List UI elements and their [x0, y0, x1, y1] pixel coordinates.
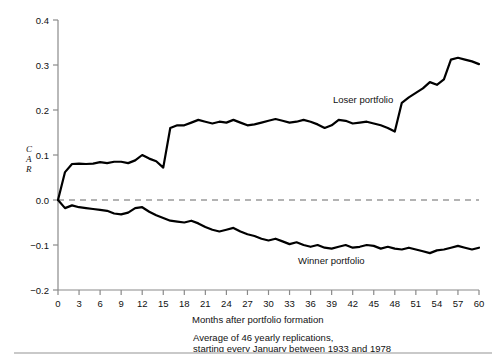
x-axis-tick-labels: 03691215182124273033363942454851545760	[55, 298, 484, 309]
x-axis-title: Months after portfolio formation	[192, 314, 323, 325]
y-axis-tick-label: −0.1	[30, 240, 49, 251]
y-axis-tick-label: 0.3	[36, 60, 49, 71]
x-axis-tick-label: 45	[368, 298, 379, 309]
x-axis-tick-label: 3	[76, 298, 81, 309]
figure-container: −0.2−0.10.00.10.20.30.4 0369121518212427…	[0, 0, 503, 361]
x-axis-tick-label: 42	[347, 298, 358, 309]
x-axis-tick-label: 21	[200, 298, 211, 309]
y-axis-label-letter-r: R	[25, 164, 32, 174]
y-axis-tick-label: 0.2	[36, 105, 49, 116]
y-axis-tick-label: 0.4	[36, 15, 49, 26]
x-axis-tick-label: 36	[305, 298, 316, 309]
x-axis-tick-label: 30	[263, 298, 274, 309]
x-axis-tick-label: 27	[242, 298, 253, 309]
x-axis-tick-label: 18	[179, 298, 190, 309]
x-axis-tick-label: 24	[221, 298, 232, 309]
x-axis-tick-label: 0	[55, 298, 60, 309]
x-axis-tick-label: 60	[474, 298, 485, 309]
x-axis-tick-label: 48	[390, 298, 401, 309]
y-axis-ticks	[53, 20, 58, 290]
y-axis-tick-label: 0.1	[36, 150, 49, 161]
y-axis-label-letter-c: C	[26, 144, 33, 154]
x-axis-tick-label: 51	[411, 298, 422, 309]
y-axis-tick-label: −0.2	[30, 285, 49, 296]
x-axis-tick-label: 54	[432, 298, 443, 309]
y-axis-tick-label: 0.0	[36, 195, 49, 206]
x-axis-tick-label: 6	[97, 298, 102, 309]
loser-portfolio-label: Loser portfolio	[333, 94, 393, 105]
x-axis-tick-label: 9	[119, 298, 124, 309]
x-axis-tick-label: 12	[137, 298, 148, 309]
car-line-chart: −0.2−0.10.00.10.20.30.4 0369121518212427…	[0, 0, 503, 361]
x-axis-tick-label: 15	[158, 298, 169, 309]
winner-portfolio-label: Winner portfolio	[298, 255, 365, 266]
x-axis-tick-label: 39	[326, 298, 337, 309]
y-axis-label-letter-a: A	[25, 154, 32, 164]
x-axis-tick-label: 57	[453, 298, 464, 309]
x-axis-tick-label: 33	[284, 298, 295, 309]
caption-line-1: Average of 46 yearly replications,	[193, 332, 333, 343]
y-axis-tick-labels: −0.2−0.10.00.10.20.30.4	[30, 15, 49, 296]
loser-portfolio-line	[58, 58, 479, 200]
x-axis-ticks	[58, 290, 479, 295]
winner-portfolio-line	[58, 200, 479, 253]
footer-divider	[14, 352, 492, 354]
